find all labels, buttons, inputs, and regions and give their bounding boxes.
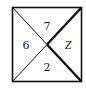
- diagonal-top-left: [13, 8, 48, 45]
- label-right: Z: [65, 38, 72, 52]
- diagonal-bottom-left: [13, 45, 48, 82]
- diagonal-square-diagram: 7 6 Z 2: [0, 0, 86, 90]
- label-top: 7: [44, 20, 51, 33]
- label-bottom: 2: [44, 61, 51, 74]
- label-left: 6: [23, 39, 30, 52]
